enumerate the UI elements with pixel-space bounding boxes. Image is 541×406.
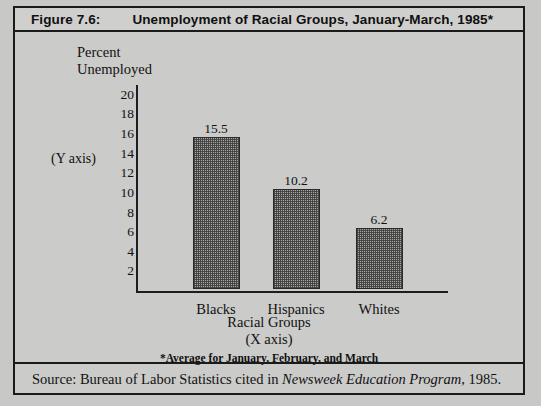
y-axis-tick-label: 16 — [94, 126, 134, 142]
bar-value-label: 6.2 — [371, 212, 388, 228]
y-axis-tick-label: 14 — [94, 146, 134, 162]
x-axis-title-line1: Racial Groups — [15, 314, 523, 331]
page-title: Unemployment of Racial Groups, January-M… — [132, 12, 493, 27]
y-axis-tick-label: 6 — [94, 224, 134, 240]
bar-value-label: 15.5 — [204, 121, 228, 137]
figure-number: Figure 7.6: — [31, 12, 100, 27]
y-axis-line — [136, 85, 138, 293]
y-axis-tick-label: 2 — [94, 263, 134, 279]
source-publication: Newsweek Education Program — [282, 371, 461, 387]
y-axis-tick-label: 18 — [94, 106, 134, 122]
chart-area: Percent Unemployed (Y axis) 201816141210… — [15, 34, 523, 362]
y-axis-tick-label: 20 — [94, 87, 134, 103]
y-axis-tick-label: 8 — [94, 205, 134, 221]
figure-header: Figure 7.6: Unemployment of Racial Group… — [15, 8, 523, 32]
x-axis-line — [136, 291, 448, 293]
y-axis-tick-label: 12 — [94, 165, 134, 181]
source-prefix: Source: Bureau of Labor Statistics cited… — [32, 371, 282, 387]
y-axis-title-line1: Percent — [77, 44, 120, 60]
source-citation: Source: Bureau of Labor Statistics cited… — [32, 371, 501, 388]
figure-container: Figure 7.6: Unemployment of Racial Group… — [0, 0, 541, 406]
y-axis-tick-label: 4 — [94, 244, 134, 260]
plot-region: 2018161412108642 15.5Blacks10.2Hispanics… — [136, 85, 446, 291]
x-axis-title-line2: (X axis) — [15, 331, 523, 348]
y-axis-tick-label: 10 — [94, 185, 134, 201]
bar-value-label: 10.2 — [284, 173, 308, 189]
bar — [193, 137, 240, 289]
bar — [273, 189, 320, 289]
y-axis-title-line2: Unemployed — [77, 61, 152, 77]
source-suffix: , 1985. — [461, 371, 501, 387]
bar — [356, 228, 403, 289]
source-band: Source: Bureau of Labor Statistics cited… — [15, 364, 523, 395]
y-axis-caption: (Y axis) — [51, 151, 96, 167]
